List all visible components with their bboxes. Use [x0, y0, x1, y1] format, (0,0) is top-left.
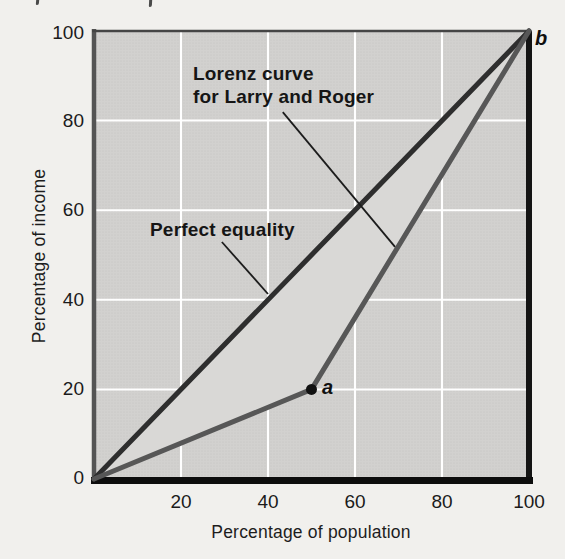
- y-tick-label: 0: [30, 467, 84, 489]
- x-tick-label: 100: [499, 491, 559, 513]
- point-b-label: b: [535, 27, 547, 50]
- point-a-label: a: [322, 376, 333, 399]
- annotation-lorenz-curve-label: Lorenz curve for Larry and Roger: [193, 62, 374, 108]
- annotation-line: for Larry and Roger: [193, 85, 374, 108]
- y-axis-title: Percentage of income: [29, 169, 50, 343]
- lorenz-curve-figure: Percentage of income Percentage of popul…: [0, 0, 565, 559]
- x-tick-label: 80: [412, 491, 472, 513]
- y-tick-label: 80: [30, 110, 84, 132]
- x-tick-label: 40: [238, 491, 298, 513]
- y-tick-label: 20: [30, 378, 84, 400]
- y-tick-label: 60: [30, 199, 84, 221]
- x-tick-label: 20: [151, 491, 211, 513]
- y-tick-label: 40: [30, 289, 84, 311]
- annotation-line: Lorenz curve: [193, 62, 374, 85]
- x-tick-label: 60: [325, 491, 385, 513]
- point-a-dot: [306, 384, 317, 395]
- y-tick-label: 100: [30, 22, 84, 44]
- x-axis-title: Percentage of population: [211, 522, 410, 543]
- annotation-perfect-equality-label: Perfect equality: [150, 218, 295, 241]
